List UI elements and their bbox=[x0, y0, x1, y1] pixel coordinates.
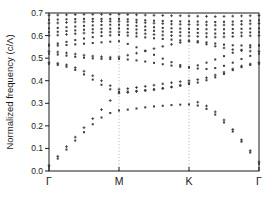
series-band-7 bbox=[48, 40, 260, 68]
gridlines bbox=[119, 13, 189, 171]
y-axis-ticks: 0.00.10.20.30.40.50.60.7 bbox=[31, 8, 49, 176]
band-structure-figure: 0.00.10.20.30.40.50.60.7ΓMKΓ Normalized … bbox=[0, 0, 272, 197]
series-band-6 bbox=[48, 40, 261, 59]
series-band-1 bbox=[48, 103, 260, 167]
series-band-3 bbox=[48, 63, 260, 93]
y-tick-label: 0.1 bbox=[31, 143, 43, 153]
k-point-label: K bbox=[185, 175, 192, 187]
y-tick-label: 0.6 bbox=[31, 31, 43, 41]
y-axis-label: Normalized frequency (c/Λ) bbox=[4, 34, 15, 149]
y-tick-label: 0.2 bbox=[31, 121, 43, 131]
series-band-4 bbox=[48, 61, 261, 90]
y-tick-label: 0.7 bbox=[31, 8, 43, 18]
y-tick-label: 0.3 bbox=[31, 98, 43, 108]
k-point-label: Γ bbox=[256, 175, 262, 187]
plot-frame bbox=[49, 13, 259, 171]
series-band-2 bbox=[48, 82, 261, 167]
series-band-14 bbox=[48, 13, 261, 18]
y-tick-label: 0.4 bbox=[31, 76, 43, 86]
x-axis-labels: ΓMKΓ bbox=[46, 167, 262, 187]
k-point-label: M bbox=[115, 175, 124, 187]
series-band-11 bbox=[48, 24, 260, 31]
k-point-label: Γ bbox=[46, 175, 52, 187]
y-tick-label: 0.0 bbox=[31, 166, 43, 176]
y-tick-label: 0.5 bbox=[31, 53, 43, 63]
band-structure-chart: 0.00.10.20.30.40.50.60.7ΓMKΓ bbox=[0, 0, 272, 197]
